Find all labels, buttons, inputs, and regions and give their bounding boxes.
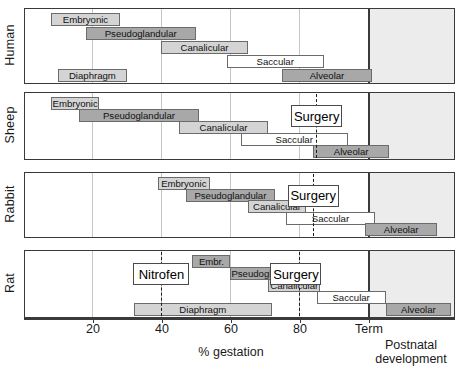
stage-bar: Pseudogl. — [230, 267, 271, 280]
callout-nitrofen: Nitrofen — [133, 263, 189, 285]
x-tick-label: 40 — [155, 322, 169, 336]
postnatal-development-label: Postnataldevelopment — [375, 338, 447, 366]
stage-bar: Pseudoglandular — [86, 27, 196, 40]
stage-bar: Diaphragm — [134, 303, 272, 316]
species-label-sheep: Sheep — [3, 91, 17, 159]
stage-bar: Alveolar — [313, 145, 389, 158]
callout-surgery: Surgery — [291, 105, 342, 127]
x-axis-line — [24, 318, 455, 320]
species-label-human: Human — [3, 7, 17, 83]
callout-surgery: Surgery — [288, 185, 339, 207]
x-tick-label: 20 — [86, 322, 100, 336]
postnatal-shaded-region — [368, 9, 454, 83]
x-tick-label: 80 — [293, 322, 307, 336]
gridline-40 — [161, 93, 162, 159]
gridline-20 — [92, 251, 93, 317]
postnatal-label-line1: Postnatal — [375, 338, 447, 352]
panel-rabbit: EmbryonicPseudoglandularCanalicularSaccu… — [24, 172, 455, 238]
x-tick-label: 60 — [224, 322, 238, 336]
x-axis-title: % gestation — [198, 345, 263, 359]
stage-bar: Diaphragm — [58, 69, 127, 82]
stage-bar: Saccular — [286, 212, 376, 225]
stage-bar: Alveolar — [365, 223, 437, 236]
x-tick-label: Term — [355, 322, 383, 336]
gridline-term — [368, 251, 369, 317]
stage-bar: Alveolar — [282, 69, 372, 82]
stage-bar: Canalicular — [161, 41, 247, 54]
stage-bar: Embryonic — [51, 13, 120, 26]
stage-bar: Saccular — [317, 291, 386, 304]
gestation-timeline-chart: HumanEmbryonicPseudoglandularCanalicular… — [0, 0, 463, 369]
gridline-60 — [230, 173, 231, 237]
postnatal-label-line2: development — [375, 352, 447, 366]
stage-bar: Embr. — [192, 255, 230, 268]
species-label-rat: Rat — [3, 249, 17, 317]
panel-sheep: EmbryonicPseudoglandularCanalicularSaccu… — [24, 92, 455, 160]
panel-human: EmbryonicPseudoglandularCanalicularSaccu… — [24, 8, 455, 84]
stage-bar: Alveolar — [386, 303, 452, 316]
species-label-rabbit: Rabbit — [3, 171, 17, 237]
panel-rat: Embr.Pseudogl.CanalicularSaccularAlveola… — [24, 250, 455, 318]
gridline-20 — [92, 173, 93, 237]
stage-bar: Saccular — [227, 55, 324, 68]
callout-surgery: Surgery — [270, 263, 321, 285]
